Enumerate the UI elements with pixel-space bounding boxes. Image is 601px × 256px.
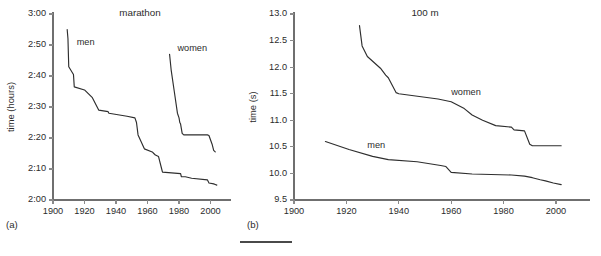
x-tick-label: 2000: [200, 206, 220, 216]
x-tick-label: 1980: [493, 206, 513, 216]
x-tick-label: 2000: [546, 206, 566, 216]
y-tick-label: 2:50: [28, 39, 46, 49]
series-label-women: women: [450, 87, 481, 97]
y-tick-label: 10.5: [269, 141, 287, 151]
series-label-men: men: [77, 37, 95, 47]
y-tick-label: 9.5: [274, 194, 287, 204]
panel-title: 100 m: [411, 7, 438, 18]
y-tick-label: 11.0: [270, 115, 287, 125]
series-label-men: men: [367, 140, 385, 150]
x-tick-label: 1900: [284, 206, 304, 216]
x-tick-label: 1920: [74, 206, 94, 216]
x-tick-label: 1940: [389, 206, 409, 216]
panel-caption: (b): [247, 219, 259, 230]
series-label-women: women: [176, 43, 207, 53]
y-tick-label: 13.0: [269, 8, 287, 18]
x-tick-label: 1980: [169, 206, 189, 216]
y-axis-title: time (hours): [5, 82, 16, 132]
x-tick-label: 1940: [106, 206, 126, 216]
x-tick-label: 1960: [441, 206, 461, 216]
y-tick-label: 2:30: [28, 101, 46, 111]
y-tick-label: 2:10: [28, 163, 46, 173]
y-tick-label: 12.5: [269, 35, 287, 45]
series-line-men: [325, 142, 561, 185]
panel-title: marathon: [119, 7, 160, 18]
y-tick-label: 2:20: [28, 132, 46, 142]
x-tick-label: 1900: [43, 206, 63, 216]
y-tick-label: 2:00: [28, 194, 46, 204]
y-tick-label: 2:40: [28, 70, 46, 80]
y-tick-label: 10.0: [269, 168, 287, 178]
chart-panel-a: 2:002:102:202:302:402:503:00190019201940…: [5, 7, 231, 230]
series-line-women: [359, 26, 561, 146]
chart-panel-b: 9.510.010.511.011.512.012.513.0190019201…: [247, 7, 590, 230]
x-tick-label: 1960: [137, 206, 157, 216]
y-tick-label: 3:00: [28, 8, 46, 18]
figure-container: 2:002:102:202:302:402:503:00190019201940…: [0, 0, 601, 256]
y-axis-title: time (s): [247, 91, 258, 122]
y-tick-label: 11.5: [270, 88, 287, 98]
series-line-women: [170, 54, 216, 152]
dual-line-chart: 2:002:102:202:302:402:503:00190019201940…: [0, 0, 601, 256]
y-tick-label: 12.0: [269, 62, 287, 72]
panel-caption: (a): [6, 219, 18, 230]
x-tick-label: 1920: [336, 206, 356, 216]
